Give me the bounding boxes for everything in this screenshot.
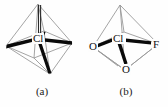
atom-label-bottom-oxygen: O — [121, 64, 131, 75]
structure-panel-a: Cl (a) — [0, 0, 84, 107]
bond-center-bottom-o — [118, 43, 128, 65]
center-atom-label-a: Cl — [32, 33, 44, 44]
bond-center-left — [6, 38, 34, 48]
atom-label-left-oxygen: O — [88, 41, 98, 52]
wire-eq-1 — [6, 46, 34, 58]
bond-center-right — [45, 38, 72, 45]
bond-center-right-f — [126, 39, 151, 45]
atom-label-right-fluorine: F — [152, 39, 160, 50]
wire-top-front — [34, 4, 38, 58]
panel-caption-a: (a) — [0, 85, 84, 97]
structure-panel-b: Cl O F O (b) — [84, 0, 168, 107]
figure-root: Cl (a) — [0, 0, 168, 107]
center-atom-label-b: Cl — [112, 33, 124, 44]
panel-caption-b: (b) — [84, 85, 168, 97]
